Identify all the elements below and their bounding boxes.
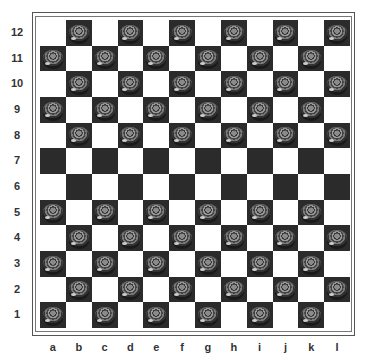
square-k1[interactable] <box>298 302 324 328</box>
square-a6[interactable] <box>40 174 66 200</box>
square-j4[interactable] <box>273 225 299 251</box>
square-e8[interactable] <box>143 123 169 149</box>
square-c7[interactable] <box>92 148 118 174</box>
square-e5[interactable] <box>143 200 169 226</box>
square-c12[interactable] <box>92 20 118 46</box>
square-d8[interactable] <box>118 123 144 149</box>
square-k12[interactable] <box>298 20 324 46</box>
square-h4[interactable] <box>221 225 247 251</box>
square-i2[interactable] <box>247 277 273 303</box>
square-c4[interactable] <box>92 225 118 251</box>
checker-piece-a5[interactable] <box>43 204 63 220</box>
checker-piece-c9[interactable] <box>95 102 115 118</box>
square-b4[interactable] <box>66 225 92 251</box>
square-i5[interactable] <box>247 200 273 226</box>
square-h7[interactable] <box>221 148 247 174</box>
square-c6[interactable] <box>92 174 118 200</box>
square-l7[interactable] <box>324 148 350 174</box>
square-d5[interactable] <box>118 200 144 226</box>
square-e6[interactable] <box>143 174 169 200</box>
square-e3[interactable] <box>143 251 169 277</box>
square-i6[interactable] <box>247 174 273 200</box>
checker-piece-k1[interactable] <box>301 307 321 323</box>
checker-piece-g1[interactable] <box>198 307 218 323</box>
checker-piece-h10[interactable] <box>224 76 244 92</box>
square-d7[interactable] <box>118 148 144 174</box>
square-h2[interactable] <box>221 277 247 303</box>
square-k5[interactable] <box>298 200 324 226</box>
checker-piece-f2[interactable] <box>172 281 192 297</box>
checker-piece-i9[interactable] <box>250 102 270 118</box>
checker-piece-j8[interactable] <box>275 127 295 143</box>
square-b3[interactable] <box>66 251 92 277</box>
square-a11[interactable] <box>40 46 66 72</box>
square-i8[interactable] <box>247 123 273 149</box>
square-d6[interactable] <box>118 174 144 200</box>
checker-piece-g3[interactable] <box>198 256 218 272</box>
checkers-board[interactable] <box>40 20 350 328</box>
checker-piece-h2[interactable] <box>224 281 244 297</box>
square-b11[interactable] <box>66 46 92 72</box>
square-j12[interactable] <box>273 20 299 46</box>
square-j1[interactable] <box>273 302 299 328</box>
square-e10[interactable] <box>143 71 169 97</box>
square-l8[interactable] <box>324 123 350 149</box>
checker-piece-e3[interactable] <box>146 256 166 272</box>
checker-piece-d4[interactable] <box>120 230 140 246</box>
square-e2[interactable] <box>143 277 169 303</box>
checker-piece-i5[interactable] <box>250 204 270 220</box>
square-k3[interactable] <box>298 251 324 277</box>
square-b7[interactable] <box>66 148 92 174</box>
checker-piece-d2[interactable] <box>120 281 140 297</box>
checker-piece-a9[interactable] <box>43 102 63 118</box>
square-k7[interactable] <box>298 148 324 174</box>
checker-piece-k11[interactable] <box>301 50 321 66</box>
square-e4[interactable] <box>143 225 169 251</box>
square-j6[interactable] <box>273 174 299 200</box>
square-c11[interactable] <box>92 46 118 72</box>
checker-piece-f8[interactable] <box>172 127 192 143</box>
square-h6[interactable] <box>221 174 247 200</box>
square-h1[interactable] <box>221 302 247 328</box>
square-j7[interactable] <box>273 148 299 174</box>
checker-piece-h8[interactable] <box>224 127 244 143</box>
square-i12[interactable] <box>247 20 273 46</box>
checker-piece-a1[interactable] <box>43 307 63 323</box>
checker-piece-l4[interactable] <box>327 230 347 246</box>
square-a9[interactable] <box>40 97 66 123</box>
square-l10[interactable] <box>324 71 350 97</box>
square-f12[interactable] <box>169 20 195 46</box>
checker-piece-k9[interactable] <box>301 102 321 118</box>
square-i3[interactable] <box>247 251 273 277</box>
square-g10[interactable] <box>195 71 221 97</box>
square-b6[interactable] <box>66 174 92 200</box>
square-f2[interactable] <box>169 277 195 303</box>
checker-piece-b4[interactable] <box>69 230 89 246</box>
checker-piece-l12[interactable] <box>327 25 347 41</box>
square-f6[interactable] <box>169 174 195 200</box>
square-k11[interactable] <box>298 46 324 72</box>
checker-piece-e5[interactable] <box>146 204 166 220</box>
square-k9[interactable] <box>298 97 324 123</box>
square-f5[interactable] <box>169 200 195 226</box>
square-f9[interactable] <box>169 97 195 123</box>
square-f4[interactable] <box>169 225 195 251</box>
checker-piece-k5[interactable] <box>301 204 321 220</box>
square-l12[interactable] <box>324 20 350 46</box>
checker-piece-f10[interactable] <box>172 76 192 92</box>
square-a8[interactable] <box>40 123 66 149</box>
square-g12[interactable] <box>195 20 221 46</box>
checker-piece-i11[interactable] <box>250 50 270 66</box>
square-g5[interactable] <box>195 200 221 226</box>
square-f3[interactable] <box>169 251 195 277</box>
checker-piece-l8[interactable] <box>327 127 347 143</box>
checker-piece-b2[interactable] <box>69 281 89 297</box>
square-f8[interactable] <box>169 123 195 149</box>
square-a10[interactable] <box>40 71 66 97</box>
checker-piece-k3[interactable] <box>301 256 321 272</box>
square-h9[interactable] <box>221 97 247 123</box>
checker-piece-d12[interactable] <box>120 25 140 41</box>
square-l6[interactable] <box>324 174 350 200</box>
square-i10[interactable] <box>247 71 273 97</box>
checker-piece-g11[interactable] <box>198 50 218 66</box>
